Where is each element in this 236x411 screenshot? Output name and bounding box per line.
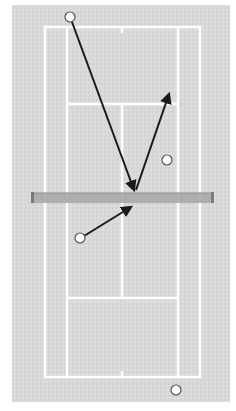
ball-lower-left-icon xyxy=(75,233,85,243)
net-post-right xyxy=(211,192,214,203)
net xyxy=(31,192,214,203)
ball-bottom-right-icon xyxy=(171,385,181,395)
net-band xyxy=(32,193,213,203)
court-canvas xyxy=(0,0,236,411)
tennis-court-diagram xyxy=(0,0,236,411)
ball-right-service-box-icon xyxy=(162,155,172,165)
ball-top-left-icon xyxy=(65,12,75,22)
net-post-left xyxy=(31,192,34,203)
